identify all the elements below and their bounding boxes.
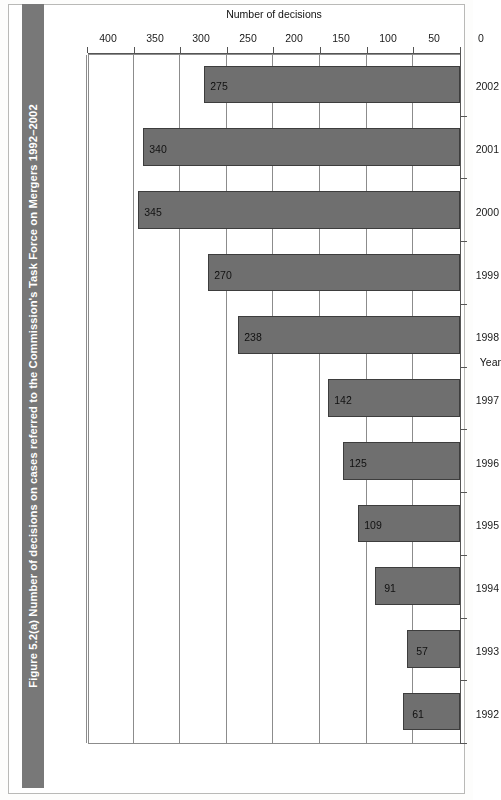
category-axis-tick: [461, 618, 467, 619]
category-axis-label: 2000: [467, 206, 499, 218]
bar: [204, 66, 460, 104]
bar-value-label: 91: [378, 582, 402, 594]
category-axis-label: 1992: [467, 708, 499, 720]
bar-value-label: 142: [331, 394, 355, 406]
bar-value-label: 109: [361, 519, 385, 531]
gridline: [86, 55, 87, 743]
bar-value-label: 275: [207, 80, 231, 92]
bar: [138, 191, 460, 229]
value-axis-tick-label: 0: [461, 32, 501, 44]
category-axis-tick: [461, 116, 467, 117]
category-axis-label: 1995: [467, 519, 499, 531]
category-axis-label: 2002: [467, 80, 499, 92]
category-axis-tick: [461, 178, 467, 179]
value-axis-tick-label: 50: [414, 32, 454, 44]
category-axis-label: 2001: [467, 143, 499, 155]
category-axis-tick: [461, 492, 467, 493]
value-axis-tick-label: 400: [88, 32, 128, 44]
category-axis-label: 1998: [467, 331, 499, 343]
bar-value-label: 270: [211, 269, 235, 281]
category-axis-tick: [461, 555, 467, 556]
category-axis-tick: [461, 241, 467, 242]
value-axis-tick-label: 200: [275, 32, 315, 44]
plot-area: [88, 54, 461, 744]
bar: [208, 254, 460, 292]
value-axis-title: Number of decisions: [215, 8, 335, 20]
category-axis-label: 1997: [467, 394, 499, 406]
category-axis-label: 1999: [467, 269, 499, 281]
value-axis-tick-label: 100: [368, 32, 408, 44]
category-axis-label: 1994: [467, 582, 499, 594]
bar-value-label: 345: [141, 206, 165, 218]
bar-value-label: 340: [146, 143, 170, 155]
value-axis-tick-label: 300: [181, 32, 221, 44]
chart-rotator: 0501001502002503003504006119925719939119…: [46, 10, 461, 788]
bar-value-label: 61: [406, 708, 430, 720]
category-axis-label: 1993: [467, 645, 499, 657]
category-axis-tick: [461, 304, 467, 305]
value-axis-tick-label: 350: [135, 32, 175, 44]
category-axis-title: Year: [467, 356, 501, 368]
figure-title-band: Figure 5.2(a) Number of decisions on cas…: [22, 4, 44, 788]
category-axis-tick: [461, 429, 467, 430]
bar-value-label: 238: [241, 331, 265, 343]
bar: [143, 128, 460, 166]
figure-caption: Figure 5.2(a) Number of decisions on cas…: [27, 104, 39, 688]
value-axis-line: [88, 53, 461, 54]
bar: [238, 316, 460, 354]
category-axis-tick: [461, 743, 467, 744]
category-axis-line: [460, 54, 461, 744]
gridline: [133, 55, 134, 743]
bar-value-label: 125: [346, 457, 370, 469]
category-axis-tick: [461, 680, 467, 681]
value-axis-tick-label: 150: [321, 32, 361, 44]
bar-value-label: 57: [410, 645, 434, 657]
value-axis-tick-label: 250: [228, 32, 268, 44]
category-axis-label: 1996: [467, 457, 499, 469]
